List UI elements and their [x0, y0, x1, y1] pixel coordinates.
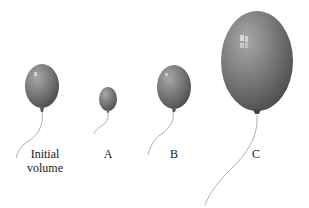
balloon-initial [16, 64, 59, 158]
balloons-illustration [0, 0, 309, 208]
label-a: A [98, 147, 118, 161]
balloon-a [94, 87, 117, 134]
label-initial-volume: Initial volume [20, 147, 70, 175]
balloon-b [148, 65, 191, 155]
label-initial-line1: Initial [31, 147, 60, 161]
label-b: B [164, 147, 184, 161]
balloon-volume-diagram: Initial volume A B C [0, 0, 309, 208]
label-c: C [246, 147, 266, 161]
balloon-c [205, 11, 293, 205]
label-initial-line2: volume [27, 161, 63, 175]
